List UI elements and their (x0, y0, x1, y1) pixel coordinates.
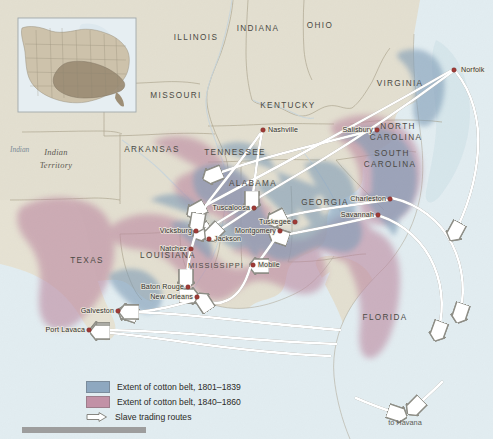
legend-row-2: Slave trading routes (86, 409, 386, 424)
state-label-north-8: NORTH (380, 122, 416, 131)
city-label-tuskegee: Tuskegee (259, 218, 291, 226)
legend-row-0: Extent of cotton belt, 1801–1839 (86, 379, 386, 394)
state-label-texas-14: TEXAS (70, 256, 104, 265)
city-label-norfolk: Norfolk (461, 66, 485, 74)
state-labels: ILLINOISINDIANAOHIOMISSOURIKENTUCKYVIRGI… (70, 21, 423, 322)
city-dot-tuscaloosa[interactable] (252, 206, 257, 211)
city-label-savannah: Savannah (341, 211, 374, 219)
scale-bar (22, 427, 146, 433)
city-label-vicksburg: Vicksburg (160, 227, 192, 235)
state-label-virginia-5: VIRGINIA (377, 79, 424, 88)
city-label-tuscaloosa: Tuscaloosa (212, 204, 250, 212)
city-label-port-lavaca: Port Lavaca (45, 326, 85, 334)
city-dot-savannah[interactable] (376, 213, 381, 218)
legend-row-1: Extent of cotton belt, 1840–1860 (86, 394, 386, 409)
city-dot-new-orleans[interactable] (195, 295, 200, 300)
state-label-tennessee-7: TENNESSEE (204, 148, 266, 157)
state-label-georgia-13: GEORGIA (301, 198, 349, 207)
city-dot-tuskegee[interactable] (293, 220, 298, 225)
city-dot-baton-rouge[interactable] (186, 285, 191, 290)
city-label-galveston: Galveston (81, 307, 114, 315)
city-dot-jackson[interactable] (207, 237, 212, 242)
city-dot-salisbury[interactable] (375, 128, 380, 133)
city-label-new-orleans: New Orleans (150, 293, 193, 301)
state-label-ohio-2: OHIO (307, 21, 333, 30)
legend-arrow-icon (86, 412, 108, 422)
state-label-missouri-3: MISSOURI (150, 91, 201, 100)
city-dot-port-lavaca[interactable] (87, 328, 92, 333)
label-to-havana: to Havana (388, 418, 423, 427)
state-label-south-10: SOUTH (374, 149, 409, 158)
label-indian-ocean-left: Indian (9, 145, 30, 154)
state-label-illinois-0: ILLINOIS (174, 33, 218, 42)
city-dot-mobile[interactable] (251, 263, 256, 268)
city-dot-charleston[interactable] (388, 197, 393, 202)
state-label-arkansas-6: ARKANSAS (124, 145, 179, 154)
city-label-charleston: Charleston (350, 195, 386, 203)
state-label-carolina-9: CAROLINA (370, 133, 423, 142)
state-label-carolina-11: CAROLINA (364, 160, 417, 169)
legend-swatch-1 (86, 396, 110, 408)
legend-swatch-0 (86, 381, 110, 393)
legend-label-0: Extent of cotton belt, 1801–1839 (117, 382, 241, 392)
map-labels-layer: ILLINOISINDIANAOHIOMISSOURIKENTUCKYVIRGI… (0, 0, 493, 439)
state-label-alabama-12: ALABAMA (229, 179, 277, 188)
city-label-nashville: Nashville (268, 126, 298, 134)
city-label-natchez: Natchez (160, 245, 187, 253)
city-dot-montgomery[interactable] (278, 229, 283, 234)
city-dot-galveston[interactable] (116, 309, 121, 314)
city-dot-vicksburg[interactable] (194, 229, 199, 234)
label-indian-territory-line1: Indian (43, 148, 68, 157)
legend-label-1: Extent of cotton belt, 1840–1860 (117, 397, 241, 407)
city-label-mobile: Mobile (258, 261, 280, 269)
legend-label-2: Slave trading routes (115, 412, 191, 422)
city-dot-natchez[interactable] (189, 247, 194, 252)
city-label-salisbury: Salisbury (342, 126, 373, 134)
city-dot-nashville[interactable] (261, 128, 266, 133)
city-label-baton-rouge: Baton Rouge (141, 283, 184, 291)
state-label-mississippi-16: MISSISSIPPI (188, 261, 244, 270)
city-dot-norfolk[interactable] (452, 68, 457, 73)
label-indian-territory-line2: Territory (40, 161, 73, 170)
state-label-kentucky-4: KENTUCKY (260, 101, 315, 110)
city-label-montgomery: Montgomery (235, 227, 276, 235)
state-label-florida-17: FLORIDA (363, 313, 408, 322)
state-label-indiana-1: INDIANA (237, 24, 280, 33)
map-legend: Extent of cotton belt, 1801–1839Extent o… (86, 379, 386, 424)
city-label-jackson: Jackson (214, 235, 241, 243)
historical-map: ILLINOISINDIANAOHIOMISSOURIKENTUCKYVIRGI… (0, 0, 493, 439)
